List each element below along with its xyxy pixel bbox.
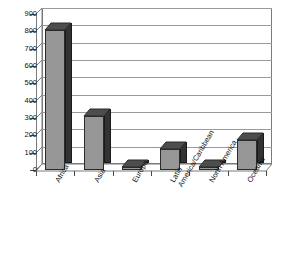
x-axis-tick: [151, 171, 152, 176]
x-axis-tick: [36, 171, 37, 176]
gridline: [42, 77, 272, 78]
y-axis-tick-label: 800: [11, 27, 37, 34]
bar-africa: [45, 30, 65, 170]
y-axis-tick-label: 500: [11, 79, 37, 86]
y-axis-tick-label: 600: [11, 62, 37, 69]
bar-front-face: [45, 30, 65, 170]
y-axis-depth-connector: [36, 77, 44, 85]
y-axis-tick-label: 100: [11, 149, 37, 156]
bar-chart: 0100200300400500600700800900 AfricaAsiaE…: [0, 0, 287, 255]
x-axis-tick: [113, 171, 114, 176]
y-axis-tick-label: 0: [11, 166, 37, 173]
bar-asia: [84, 116, 104, 170]
gridline: [42, 8, 272, 9]
y-axis-depth-connector: [36, 164, 44, 172]
bar-side-face: [104, 109, 111, 163]
gridline: [42, 25, 272, 26]
y-axis-depth-connector: [36, 112, 44, 120]
y-axis-tick-label: 900: [11, 10, 37, 17]
bar-side-face: [65, 23, 72, 163]
y-axis-depth-connector: [36, 43, 44, 51]
bar-top-face: [160, 142, 180, 149]
y-axis-tick-label: 300: [11, 114, 37, 121]
gridline: [42, 95, 272, 96]
y-axis-depth-connector: [36, 25, 44, 33]
gridline: [42, 112, 272, 113]
gridline: [42, 129, 272, 130]
x-axis-tick: [74, 171, 75, 176]
y-axis-tick-label: 400: [11, 97, 37, 104]
x-axis-tick: [228, 171, 229, 176]
bar-top-face: [237, 133, 257, 140]
y-axis-depth-connector: [36, 60, 44, 68]
y-axis-depth-connector: [36, 147, 44, 155]
y-axis-depth-connector: [36, 8, 44, 16]
x-axis-tick: [266, 171, 267, 176]
bar-front-face: [84, 116, 104, 170]
bar-top-face: [84, 109, 104, 116]
y-axis-depth-connector: [36, 129, 44, 137]
gridline: [42, 43, 272, 44]
y-axis-depth-connector: [36, 95, 44, 103]
bar-top-face: [45, 23, 65, 30]
y-axis-tick-label: 200: [11, 131, 37, 138]
gridline: [42, 60, 272, 61]
y-axis-tick-label: 700: [11, 45, 37, 52]
